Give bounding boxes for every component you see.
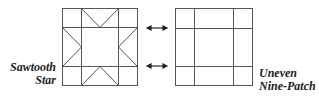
label-line: Star	[0, 74, 56, 87]
double-arrow-icon	[147, 26, 167, 30]
sawtooth-star-label: Sawtooth Star	[0, 61, 56, 87]
uneven-nine-patch-block	[176, 9, 253, 86]
double-arrow-icon	[147, 64, 167, 68]
sawtooth-star-block	[63, 9, 138, 86]
uneven-nine-patch-label: Uneven Nine-Patch	[259, 67, 319, 93]
label-line: Nine-Patch	[259, 80, 319, 93]
